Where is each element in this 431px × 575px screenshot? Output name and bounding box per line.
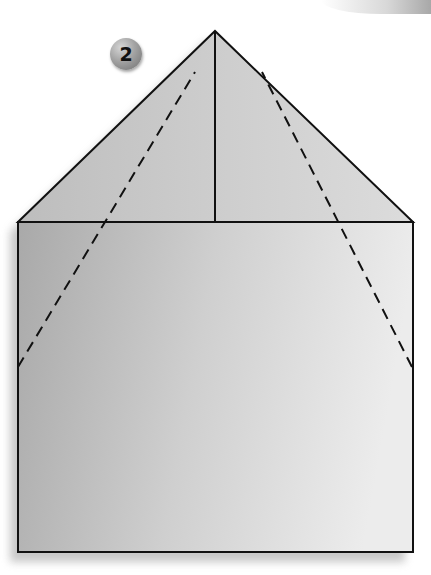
step-number-badge: 2 xyxy=(110,38,142,70)
step-number: 2 xyxy=(119,45,132,64)
paper-body xyxy=(18,222,413,552)
paper-airplane-fold-diagram xyxy=(0,0,431,575)
